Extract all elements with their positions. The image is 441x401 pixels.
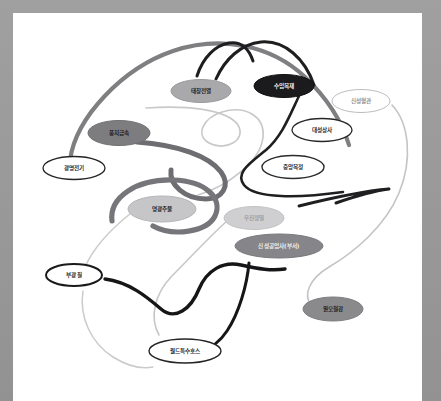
edge-black-zigzag-lower — [105, 264, 285, 314]
node-shape[interactable] — [235, 234, 323, 258]
node-shape[interactable] — [292, 119, 352, 142]
node-shape[interactable] — [43, 157, 105, 180]
node-shape[interactable] — [171, 80, 231, 103]
node-shape[interactable] — [46, 264, 102, 286]
graph-node[interactable]: 대성상사 — [292, 119, 352, 142]
graph-node[interactable]: 부광칠 — [46, 264, 102, 286]
edge-dark-loop-right-center — [241, 96, 343, 196]
window-frame: 태창전열수입목재신성혈관풍지금속대성상사광명전기중앙목정영광주물우진정밀신성공업… — [0, 0, 441, 401]
node-shape[interactable] — [128, 196, 196, 222]
graph-node[interactable]: 태창전열 — [171, 80, 231, 103]
node-shape[interactable] — [262, 156, 324, 179]
edge-light-arc-left-to-center — [85, 213, 131, 267]
network-graph: 태창전열수입목재신성혈관풍지금속대성상사광명전기중앙목정영광주물우진정밀신성공업… — [13, 13, 422, 401]
graph-node[interactable]: 우진정밀 — [224, 207, 284, 230]
diagram-canvas: 태창전열수입목재신성혈관풍지금속대성상사광명전기중앙목정영광주물우진정밀신성공업… — [13, 13, 422, 401]
node-shape[interactable] — [224, 207, 284, 230]
node-shape[interactable] — [254, 75, 314, 98]
node-shape[interactable] — [332, 90, 390, 113]
graph-node[interactable]: 수입목재 — [254, 75, 314, 98]
node-shape[interactable] — [149, 339, 221, 363]
graph-node[interactable]: 원오철강 — [303, 297, 363, 321]
graph-node[interactable]: 신성공업사(부서) — [235, 234, 323, 258]
edge-light-curve-lower-center — [154, 221, 227, 335]
node-shape[interactable] — [303, 297, 363, 321]
graph-node[interactable]: 광명전기 — [43, 157, 105, 180]
graph-node[interactable]: 중앙목정 — [262, 156, 324, 179]
graph-node[interactable]: 풍지금속 — [88, 121, 150, 146]
node-shape[interactable] — [88, 121, 150, 146]
graph-node[interactable]: 영광주물 — [128, 196, 196, 222]
graph-node[interactable]: 신성혈관 — [332, 90, 390, 113]
graph-node[interactable]: 월드특수호스 — [149, 339, 221, 363]
edge-light-arc-bottom-left — [82, 291, 153, 368]
